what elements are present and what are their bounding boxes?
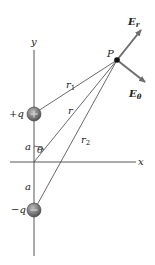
y-axis-label: y <box>30 36 37 47</box>
a-lower-label: a <box>25 181 31 192</box>
e-theta-label: Eθ <box>128 88 142 101</box>
point-p-label: P <box>106 48 114 59</box>
e-r-label: Er <box>127 16 141 29</box>
negative-charge-label: −q <box>11 204 26 215</box>
r2-line <box>37 60 117 205</box>
e-theta-arrow <box>117 60 145 82</box>
a-upper-label: a <box>25 141 31 152</box>
point-p <box>114 57 120 63</box>
x-axis-label: x <box>138 156 144 167</box>
theta-label: θ <box>37 144 43 155</box>
r1-label: r1 <box>66 79 75 92</box>
r2-label: r2 <box>81 134 90 147</box>
positive-charge <box>27 107 41 121</box>
negative-charge <box>27 203 41 217</box>
r-line <box>34 60 117 162</box>
positive-charge-label: +q <box>9 108 24 119</box>
r1-line <box>38 60 117 111</box>
dipole-diagram: y x r1 r r2 a a θ +q −q Er Eθ P <box>0 0 155 265</box>
e-r-arrow <box>117 30 141 60</box>
